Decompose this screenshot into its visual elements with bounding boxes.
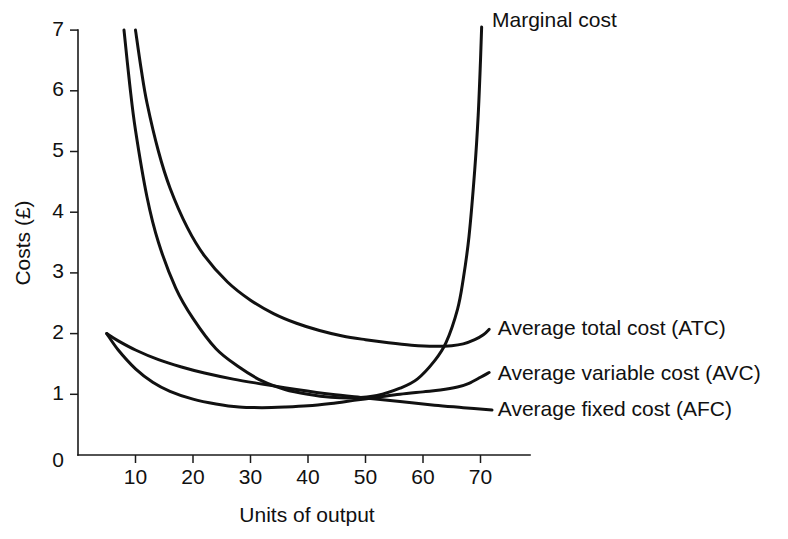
y-tick-label: 4: [52, 199, 64, 222]
series-label-afc: Average fixed cost (AFC): [498, 397, 732, 420]
series-label-atc: Average total cost (ATC): [498, 316, 726, 339]
x-tick-label: 60: [411, 465, 434, 488]
x-tick-label: 20: [181, 465, 204, 488]
x-axis-ticks: 10203040506070: [124, 455, 492, 488]
x-tick-label: 30: [239, 465, 262, 488]
series-label-mc: Marginal cost: [492, 8, 617, 31]
series-label-avc: Average variable cost (AVC): [498, 361, 761, 384]
x-tick-label: 70: [469, 465, 492, 488]
x-tick-label: 10: [124, 465, 147, 488]
curve-atc: [136, 30, 490, 346]
curve-avc: [107, 334, 489, 408]
y-tick-label: 7: [52, 17, 64, 40]
x-tick-label: 50: [354, 465, 377, 488]
series-label-group: Marginal costAverage total cost (ATC)Ave…: [492, 8, 761, 420]
y-tick-label: 1: [52, 381, 64, 404]
cost-curves-figure: 01234567 10203040506070 Marginal costAve…: [0, 0, 788, 539]
curve-mc: [124, 27, 482, 398]
y-tick-label: 2: [52, 320, 64, 343]
y-tick-label: 0: [52, 448, 64, 471]
y-axis-title: Costs (£): [11, 200, 34, 285]
y-tick-label: 3: [52, 259, 64, 282]
x-tick-label: 40: [296, 465, 319, 488]
y-axis-ticks: 01234567: [52, 17, 78, 471]
y-tick-label: 5: [52, 138, 64, 161]
curve-series-group: [107, 27, 492, 410]
y-tick-label: 6: [52, 77, 64, 100]
x-axis-title: Units of output: [239, 503, 375, 526]
chart-canvas: 01234567 10203040506070 Marginal costAve…: [0, 0, 788, 539]
